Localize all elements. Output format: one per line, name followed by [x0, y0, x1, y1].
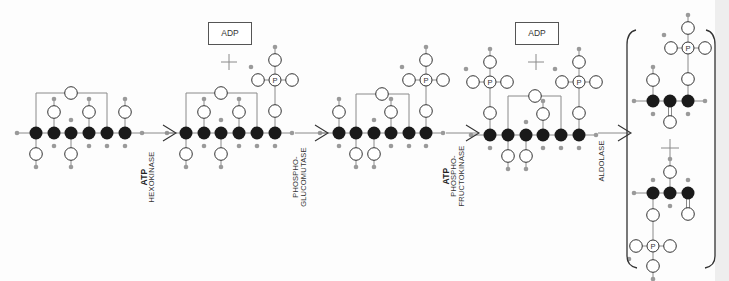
oxygen-atom — [664, 166, 677, 179]
oxygen-atom — [83, 106, 96, 119]
hydrogen-atom — [52, 144, 57, 149]
hydrogen-atom — [69, 165, 74, 170]
oxygen-atom — [647, 74, 660, 87]
hydrogen-atom — [52, 97, 57, 102]
hydrogen-atom — [202, 97, 207, 102]
carbon-atom — [555, 129, 568, 142]
carbon-atom — [502, 129, 515, 142]
hydrogen-atom — [488, 47, 493, 52]
hydrogen-atom — [219, 165, 224, 170]
hydrogen-atom — [69, 118, 74, 123]
hydrogen-atom — [372, 118, 377, 123]
hydrogen-atom — [249, 65, 254, 70]
carbon-atom — [65, 127, 78, 140]
carbon-atom — [682, 95, 695, 108]
carbon-atom — [350, 127, 363, 140]
carbon-atom — [198, 127, 211, 140]
phosphorus-label: P — [487, 78, 492, 87]
oxygen-atom — [252, 74, 265, 87]
phosphorus-label: P — [685, 44, 690, 53]
oxygen-atom — [376, 88, 389, 101]
phosphorus-label: P — [576, 78, 581, 87]
oxygen-atom — [65, 87, 78, 100]
hydrogen-atom — [553, 67, 558, 72]
carbon-atom — [83, 127, 96, 140]
hydrogen-atom — [651, 178, 656, 183]
oxygen-atom — [682, 208, 695, 221]
carbon-atom — [368, 127, 381, 140]
hydrogen-atom — [506, 167, 511, 172]
hydrogen-atom — [400, 65, 405, 70]
carbon-atom — [385, 127, 398, 140]
hydrogen-atom — [273, 144, 278, 149]
oxygen-atom — [385, 106, 398, 119]
hydrogen-atom — [524, 167, 529, 172]
hydrogen-atom — [559, 146, 564, 151]
oxygen-atom — [437, 74, 450, 87]
hydrogen-atom — [424, 144, 429, 149]
enzyme-hexokinase: HEXOKINASE — [147, 152, 156, 203]
enzyme-aldolase: ALDOLASE — [597, 140, 606, 181]
oxygen-atom — [665, 42, 678, 55]
oxygen-atom — [573, 107, 586, 120]
oxygen-atom — [215, 87, 228, 100]
carbon-atom — [647, 187, 660, 200]
hydrogen-atom — [407, 144, 412, 149]
hydrogen-atom — [255, 144, 260, 149]
bracket-right — [705, 30, 715, 268]
oxygen-atom — [664, 240, 677, 253]
oxygen-atom — [630, 240, 643, 253]
hydrogen-atom — [273, 45, 278, 50]
carbon-atom — [573, 129, 586, 142]
oxygen-atom — [537, 108, 550, 121]
hydrogen-atom — [290, 131, 295, 136]
carbon-atom — [30, 127, 43, 140]
hydrogen-atom — [389, 144, 394, 149]
hydrogen-atom — [632, 191, 637, 196]
step-phosphoglucomutase-label: PHOSPHO- GLUCOMUTASE — [292, 142, 308, 212]
hydrogen-atom — [668, 157, 673, 162]
carbon-atom — [251, 127, 264, 140]
hydrogen-atom — [424, 45, 429, 50]
oxygen-atom — [502, 150, 515, 163]
hydrogen-atom — [389, 97, 394, 102]
adp-box-2: ADP — [515, 22, 559, 45]
hydrogen-atom — [541, 146, 546, 151]
oxygen-atom — [573, 56, 586, 69]
oxygen-atom — [647, 209, 660, 222]
carbon-atom — [520, 129, 533, 142]
oxygen-atom — [556, 76, 569, 89]
hydrogen-atom — [337, 97, 342, 102]
oxygen-atom — [647, 260, 660, 273]
reaction-scheme: PPPPPP — [0, 0, 729, 281]
oxygen-atom — [501, 76, 514, 89]
step-aldolase-label: ALDOLASE — [598, 136, 606, 186]
hydrogen-atom — [219, 118, 224, 123]
carbon-atom — [180, 127, 193, 140]
oxygen-atom — [420, 54, 433, 67]
oxygen-atom — [682, 73, 695, 86]
oxygen-atom — [286, 74, 299, 87]
hydrogen-atom — [632, 99, 637, 104]
phosphorus-label: P — [650, 242, 655, 251]
hydrogen-atom — [372, 165, 377, 170]
hydrogen-atom — [577, 47, 582, 52]
adp-box-1: ADP — [208, 22, 252, 45]
hydrogen-atom — [662, 33, 667, 38]
step-phosphofructokinase-label: ATP PHOSPHO- FRUCTOKINASE — [442, 140, 466, 212]
oxygen-atom — [198, 106, 211, 119]
hydrogen-atom — [202, 144, 207, 149]
oxygen-atom — [269, 105, 282, 118]
phosphorus-label: P — [272, 76, 277, 85]
enzyme-phosphoglucomutase-line2: GLUCOMUTASE — [300, 142, 308, 212]
carbon-atom — [48, 127, 61, 140]
carbon-atom — [682, 187, 695, 200]
hydrogen-atom — [651, 277, 656, 281]
hydrogen-atom — [34, 165, 39, 170]
oxygen-atom — [65, 148, 78, 161]
oxygen-atom — [484, 56, 497, 69]
carbon-atom — [647, 95, 660, 108]
oxygen-atom — [467, 76, 480, 89]
hydrogen-atom — [123, 97, 128, 102]
hydrogen-atom — [577, 146, 582, 151]
